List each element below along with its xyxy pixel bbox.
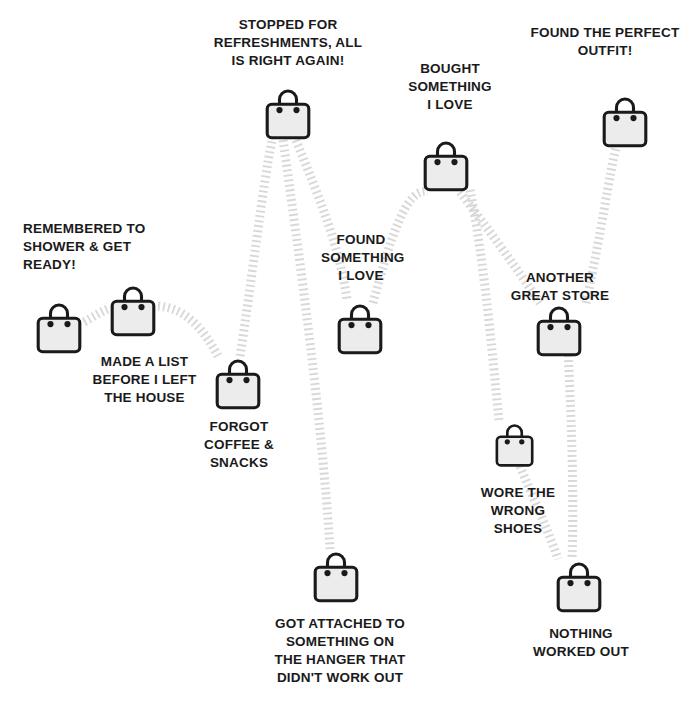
step-5-label: GOT ATTACHED TO SOMETHING ON THE HANGER … <box>246 615 434 687</box>
shopping-bag-icon <box>313 551 359 603</box>
infographic-canvas: REMEMBERED TO SHOWER & GET READY!MADE A … <box>0 0 697 715</box>
shopping-bag-icon <box>337 303 383 355</box>
step-4-label: STOPPED FOR REFRESHMENTS, ALL IS RIGHT A… <box>198 16 378 70</box>
step-9-label: WORE THE WRONG SHOES <box>470 484 566 538</box>
shopping-bag-icon <box>495 423 534 467</box>
trail-2-3 <box>158 306 218 356</box>
shopping-bag-icon <box>556 561 602 613</box>
step-3-label: FORGOT COFFEE & SNACKS <box>183 418 295 472</box>
step-1-label: REMEMBERED TO SHOWER & GET READY! <box>23 220 183 274</box>
step-6-label: FOUND SOMETHING I LOVE <box>321 231 401 285</box>
shopping-bag-icon <box>36 302 82 354</box>
shopping-bag-icon <box>215 358 261 410</box>
step-2-label: MADE A LIST BEFORE I LEFT THE HOUSE <box>77 353 212 407</box>
shopping-bag-icon <box>110 285 156 337</box>
shopping-bag-icon <box>602 96 648 148</box>
shopping-bag-icon <box>265 88 311 140</box>
step-10-label: NOTHING WORKED OUT <box>526 625 636 661</box>
shopping-bag-icon <box>423 140 469 192</box>
step-7-label: BOUGHT SOMETHING I LOVE <box>404 60 496 114</box>
trail-8-10 <box>568 350 573 559</box>
trail-3-4 <box>240 140 272 356</box>
trail-1-2 <box>84 308 110 322</box>
step-11-label: FOUND THE PERFECT OUTFIT! <box>517 24 693 60</box>
shopping-bag-icon <box>536 305 582 357</box>
step-8-label: ANOTHER GREAT STORE <box>504 269 616 305</box>
